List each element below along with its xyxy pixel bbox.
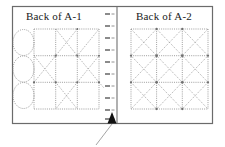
panel-title-a1: Back of A-1: [26, 10, 82, 22]
callout-leader-line: [96, 124, 112, 145]
diagram-canvas: .cons { fill: none; stroke: #8c8c8c; str…: [0, 0, 225, 147]
diagram-vector-layer: .cons { fill: none; stroke: #8c8c8c; str…: [0, 0, 225, 147]
panel-title-a2: Back of A-2: [136, 10, 192, 22]
page-border: [13, 7, 213, 124]
